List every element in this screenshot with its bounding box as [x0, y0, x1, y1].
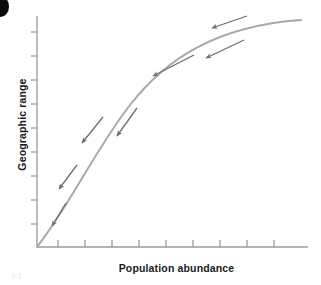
- x-axis-label: Population abundance: [0, 262, 321, 274]
- x-axis: [37, 240, 308, 247]
- direction-arrows: [52, 16, 247, 226]
- x-axis-ticks: [58, 240, 274, 247]
- arrow-7: [52, 203, 66, 226]
- arrow-1: [212, 16, 247, 28]
- y-axis-ticks: [31, 32, 37, 224]
- arrow-4: [117, 108, 137, 136]
- arrow-6: [59, 165, 77, 189]
- arrow-5: [82, 117, 103, 143]
- y-axis: [31, 16, 37, 247]
- figure-container: Population abundance Geographic range (c…: [0, 0, 321, 285]
- y-axis-label: Geographic range: [14, 7, 30, 242]
- figure-caption: (c): [12, 271, 21, 280]
- arrow-3: [153, 55, 194, 76]
- arrow-2: [206, 40, 244, 58]
- saturating-growth-curve: [37, 20, 301, 247]
- plot-canvas: [0, 0, 321, 285]
